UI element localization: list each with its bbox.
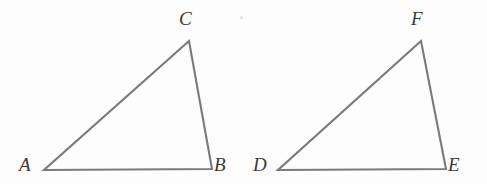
triangle-abc-shape	[44, 41, 212, 170]
geometry-figure: A B C D E F	[0, 0, 487, 184]
vertex-label-f: F	[411, 9, 423, 28]
vertex-label-d: D	[253, 155, 267, 174]
vertex-label-c: C	[179, 9, 192, 28]
triangle-def-shape	[278, 41, 446, 170]
vertex-label-a: A	[19, 155, 31, 174]
vertex-label-e: E	[448, 155, 460, 174]
scan-artifact-speck	[240, 16, 243, 19]
vertex-label-b: B	[214, 155, 226, 174]
